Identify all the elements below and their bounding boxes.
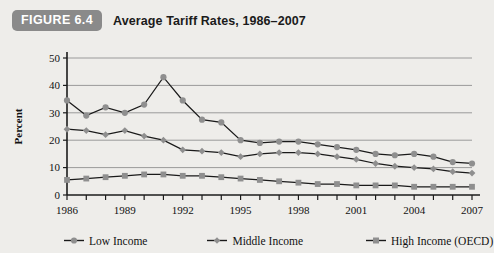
svg-text:1992: 1992 [172, 204, 194, 215]
legend-key-circle-icon [63, 235, 85, 246]
legend-item-middle-income: Middle Income [206, 235, 303, 247]
figure-header: FIGURE 6.4 Average Tariff Rates, 1986–20… [12, 10, 306, 31]
svg-text:10: 10 [49, 161, 61, 173]
legend-item-high-income: High Income (OECD) [365, 235, 493, 247]
legend-key-diamond-icon [206, 235, 228, 246]
figure-number-badge: FIGURE 6.4 [12, 10, 102, 31]
figure-container: FIGURE 6.4 Average Tariff Rates, 1986–20… [0, 0, 494, 253]
svg-text:1998: 1998 [287, 204, 310, 215]
chart-plot-area: 0102030405019861989199219951998200120042… [0, 40, 494, 215]
figure-title: Average Tariff Rates, 1986–2007 [113, 14, 306, 28]
svg-text:2001: 2001 [345, 204, 367, 215]
line-chart: 0102030405019861989199219951998200120042… [0, 40, 494, 215]
svg-text:1986: 1986 [56, 204, 79, 215]
chart-legend: Low Income Middle Income High Income (OE… [0, 228, 494, 253]
legend-label-high-income: High Income (OECD) [391, 235, 493, 247]
legend-key-square-icon [365, 235, 387, 246]
svg-text:0: 0 [55, 189, 61, 201]
svg-text:20: 20 [49, 134, 61, 146]
svg-text:2007: 2007 [461, 204, 484, 215]
svg-text:1989: 1989 [114, 204, 137, 215]
svg-text:50: 50 [49, 52, 61, 64]
legend-item-low-income: Low Income [63, 235, 147, 247]
legend-label-middle-income: Middle Income [232, 235, 303, 247]
svg-text:1995: 1995 [230, 204, 253, 215]
svg-text:40: 40 [49, 79, 61, 91]
svg-text:30: 30 [49, 107, 61, 119]
svg-text:2004: 2004 [403, 204, 426, 215]
legend-label-low-income: Low Income [89, 235, 147, 247]
svg-text:Percent: Percent [12, 108, 24, 144]
